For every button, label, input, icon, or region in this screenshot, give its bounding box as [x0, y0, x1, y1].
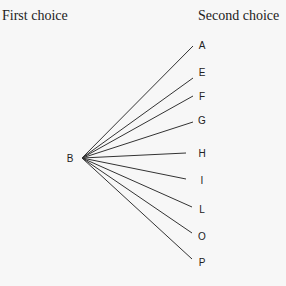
leaf-label-h: H [198, 148, 205, 159]
branch-line-p [82, 158, 192, 259]
leaf-label-o: O [198, 231, 206, 242]
leaf-label-p: P [199, 257, 206, 268]
branch-line-h [82, 153, 186, 158]
branch-line-e [82, 78, 193, 158]
leaf-label-f: F [199, 91, 205, 102]
root-node-label: B [67, 153, 74, 164]
leaf-label-e: E [199, 67, 206, 78]
branch-line-l [82, 158, 192, 207]
branch-line-a [82, 46, 193, 158]
leaf-label-i: I [201, 175, 204, 186]
leaf-label-a: A [199, 40, 206, 51]
leaf-label-l: L [199, 204, 205, 215]
tree-diagram [0, 0, 286, 286]
leaf-label-g: G [198, 115, 206, 126]
